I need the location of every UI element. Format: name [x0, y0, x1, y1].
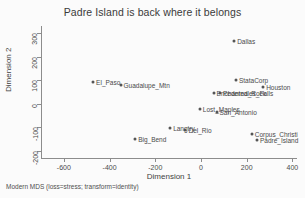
scatter-point-label: Del_Rio — [188, 126, 211, 133]
scatter-point-label: San_Antonio — [220, 109, 257, 116]
y-axis-title: Dimension 2 — [4, 48, 13, 92]
y-tick-label: 300 — [32, 33, 39, 45]
scatter-point[interactable] — [198, 107, 201, 110]
x-tick-label: -400 — [103, 164, 117, 171]
y-tick-label: 100 — [32, 80, 39, 92]
x-tick-label: 0 — [199, 164, 203, 171]
scatter-point[interactable] — [234, 78, 237, 81]
y-tick-label: 0 — [32, 104, 39, 108]
scatter-point[interactable] — [212, 92, 215, 95]
y-tick-label: -200 — [32, 151, 39, 165]
x-tick-label: 400 — [287, 164, 299, 171]
y-tick-label: -100 — [32, 127, 39, 141]
x-tick — [292, 158, 293, 162]
scatter-point[interactable] — [215, 111, 218, 114]
chart-title: Padre Island is back where it belongs — [0, 6, 305, 18]
scatter-point-label: StataCorp — [239, 76, 268, 83]
scatter-point[interactable] — [262, 86, 265, 89]
scatter-point-label: Guadalupe_Mtn — [124, 81, 170, 88]
x-tick-label: 200 — [241, 164, 253, 171]
scatter-point-label: Enchanted_Rock — [217, 90, 267, 97]
x-tick-label: -200 — [148, 164, 162, 171]
scatter-point[interactable] — [256, 139, 259, 142]
scatter-point[interactable] — [233, 40, 236, 43]
x-axis-line: -600-400-2000200400 — [41, 158, 297, 159]
plot-area: DallasStataCorpHoustonPedernales_FallsEn… — [41, 26, 297, 158]
chart-canvas: Padre Island is back where it belongs Di… — [0, 0, 305, 198]
y-tick-label: 200 — [32, 57, 39, 69]
scatter-point-label: Dallas — [237, 38, 255, 45]
chart-footnote: Modern MDS (loss=stress; transform=ident… — [6, 183, 139, 190]
x-axis-title: Dimension 1 — [41, 172, 297, 181]
x-tick — [247, 158, 248, 162]
scatter-point[interactable] — [184, 128, 187, 131]
scatter-point-label: El_Paso — [96, 79, 120, 86]
scatter-point[interactable] — [92, 81, 95, 84]
scatter-point-label: Big_Bend — [138, 136, 166, 143]
scatter-point[interactable] — [134, 138, 137, 141]
scatter-point-label: Padre_Island — [260, 137, 298, 144]
x-tick-label: -600 — [57, 164, 71, 171]
x-tick — [201, 158, 202, 162]
scatter-point[interactable] — [119, 83, 122, 86]
scatter-point[interactable] — [169, 127, 172, 130]
x-tick — [155, 158, 156, 162]
x-tick — [64, 158, 65, 162]
x-tick — [110, 158, 111, 162]
scatter-point[interactable] — [250, 132, 253, 135]
